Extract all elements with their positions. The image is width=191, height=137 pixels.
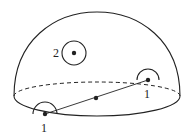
interior-point-label: 2 <box>53 46 59 60</box>
segment-midpoint-dot <box>94 96 98 100</box>
equator-back-dashed <box>14 82 180 96</box>
right-boundary-label: 1 <box>144 87 150 101</box>
hemisphere-diagram: 2 1 1 <box>0 0 191 137</box>
right-boundary-dot <box>146 78 150 82</box>
left-boundary-label: 1 <box>41 121 47 135</box>
hemisphere-dome-outline <box>14 12 180 96</box>
interior-dot <box>72 51 76 55</box>
interior-point-2: 2 <box>53 41 86 65</box>
left-boundary-dot <box>43 112 47 116</box>
boundary-point-left: 1 <box>33 102 57 135</box>
